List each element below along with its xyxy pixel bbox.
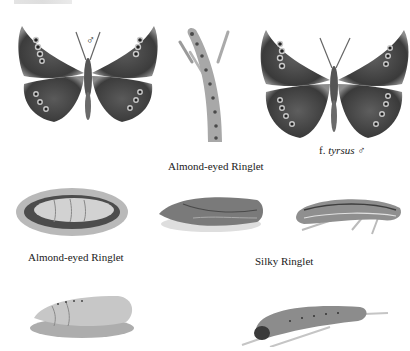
- illustration-plate: ♂: [0, 0, 410, 351]
- caption-almond-eyed-ringlet-left: Almond-eyed Ringlet: [28, 251, 124, 263]
- male-symbol: ♂: [86, 33, 95, 48]
- caterpillar-second-illustration: [240, 295, 390, 347]
- caption-f-tyrsus: f. tyrsus ♂: [319, 144, 365, 156]
- pupa-almond-eyed-illustration: [14, 180, 132, 240]
- caption-tyrsus-name: tyrsus: [328, 144, 354, 156]
- caterpillar-climbing-illustration: [178, 22, 238, 144]
- caption-tyrsus-male-symbol: ♂: [357, 144, 365, 156]
- caterpillar-silky-illustration: [292, 190, 408, 236]
- butterfly-tyrsus-illustration: [258, 24, 410, 142]
- caption-tyrsus-prefix: f.: [319, 144, 328, 156]
- pupa-second-illustration: [22, 290, 144, 340]
- pupa-silky-illustration: [153, 188, 271, 236]
- caption-almond-eyed-ringlet-top: Almond-eyed Ringlet: [168, 160, 264, 172]
- cropped-header-text: [14, 0, 72, 4]
- caption-silky-ringlet: Silky Ringlet: [255, 255, 313, 267]
